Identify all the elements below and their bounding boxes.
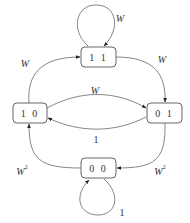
- node-11-label: 1 1: [89, 52, 108, 63]
- edge-label-01-to-10: 1: [94, 134, 99, 145]
- edge-label-01-to-00: W2: [154, 164, 165, 177]
- edge-11-to-11: [77, 5, 114, 46]
- node-11: 1 1: [81, 47, 116, 67]
- edge-label-00-to-10-exp: 2: [25, 164, 28, 170]
- edge-00-to-10: [29, 124, 81, 168]
- edge-label-10-to-11: W: [21, 58, 31, 69]
- node-10-label: 1 0: [21, 108, 40, 119]
- edge-10-to-11: [29, 57, 80, 103]
- edge-00-to-00: [80, 179, 115, 215]
- edge-label-10-to-01: W: [91, 85, 101, 96]
- node-01-label: 0 1: [155, 108, 174, 119]
- state-diagram: 1 1 1 0 0 1 0 0 W W W W 1 W2 W2 1: [0, 0, 190, 223]
- edge-01-to-10: [48, 117, 146, 129]
- edge-label-11-to-01: W: [158, 54, 168, 65]
- node-10: 1 0: [13, 103, 47, 123]
- edge-label-11-to-11: W: [116, 13, 126, 24]
- edge-10-to-01: [47, 95, 146, 109]
- edge-label-00-to-10: W2: [16, 164, 27, 177]
- edge-label-01-to-00-exp: 2: [163, 164, 166, 170]
- node-00: 0 0: [81, 158, 116, 178]
- edge-label-00-to-00: 1: [120, 207, 125, 218]
- node-01: 0 1: [147, 103, 182, 123]
- node-00-label: 0 0: [89, 163, 108, 174]
- edge-01-to-00: [117, 123, 165, 168]
